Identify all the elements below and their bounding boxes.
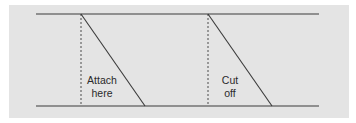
cut-off-label-line1: Cut (222, 74, 238, 86)
background-panel (9, 5, 349, 118)
diagonal-cut-diagram: Attach here Cut off (0, 0, 356, 123)
attach-label-line2: here (91, 87, 112, 99)
attach-label-line1: Attach (87, 74, 117, 86)
cut-off-label-line2: off (224, 87, 236, 99)
